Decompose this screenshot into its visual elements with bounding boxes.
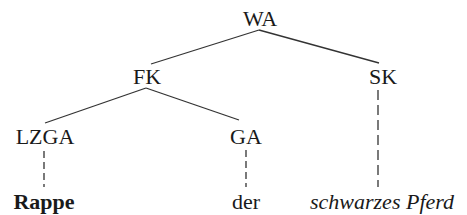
edge-wa-sk [259,30,379,63]
node-fk: FK [133,66,161,88]
node-ga: GA [230,126,262,148]
tree-edges [0,0,467,215]
edge-fk-ga [146,88,239,120]
leaf-schwarzes-pferd: schwarzes Pferd [310,191,454,213]
edge-wa-fk [151,30,259,64]
node-lzga: LZGA [16,126,75,148]
leaf-rappe: Rappe [13,191,74,213]
leaf-der: der [232,191,260,213]
edge-fk-lzga [45,88,146,123]
node-sk: SK [369,66,397,88]
node-wa: WA [243,8,277,30]
